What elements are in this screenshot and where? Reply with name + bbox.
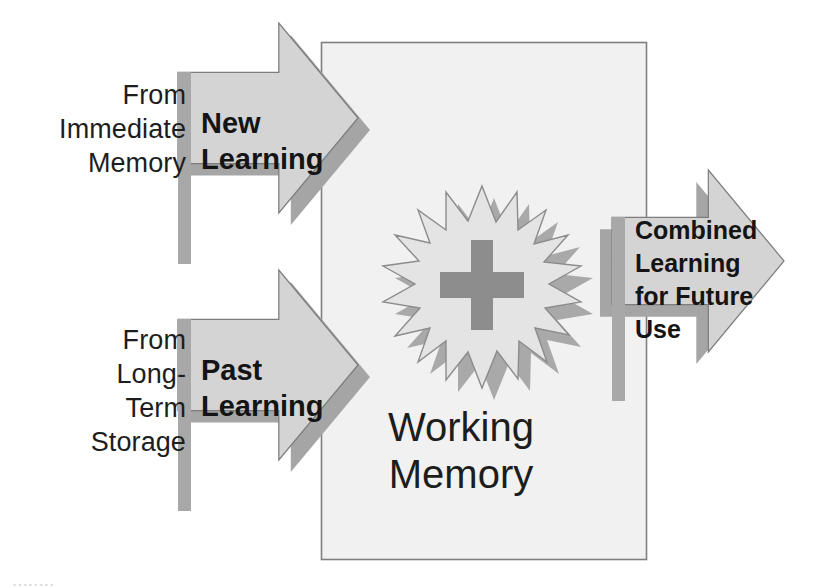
arrow-label-combined-learning: Combined Learning for Future Use xyxy=(635,214,777,346)
arrow-label-new-learning: New Learning xyxy=(201,105,361,177)
diagram-canvas: From Immediate Memory From Long- Term St… xyxy=(0,0,826,588)
label-from-immediate-memory: From Immediate Memory xyxy=(8,78,186,180)
cut-off-page-text: ........ xyxy=(12,570,812,586)
label-from-long-term-storage: From Long- Term Storage xyxy=(8,323,186,459)
working-memory-caption: Working Memory xyxy=(336,404,586,498)
